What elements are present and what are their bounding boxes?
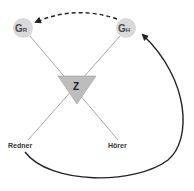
diagram-canvas: GR GH Z Redner Hörer: [0, 0, 194, 191]
gr-label: GR: [15, 23, 28, 34]
z-label: Z: [73, 81, 79, 92]
speaker-label: Redner: [8, 142, 32, 149]
listener-label: Hörer: [108, 142, 127, 149]
gh-label: GH: [118, 23, 130, 34]
